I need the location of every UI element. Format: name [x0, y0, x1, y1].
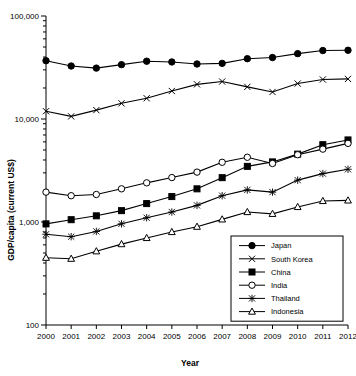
- y-tick-label: 10,000: [15, 115, 40, 124]
- series-china: [43, 137, 351, 227]
- x-tick-label: 2006: [188, 332, 206, 341]
- x-tick-label: 2010: [289, 332, 307, 341]
- y-tick-label: 1,000: [19, 218, 40, 227]
- x-tick-label: 2009: [264, 332, 282, 341]
- legend-label: South Korea: [271, 255, 314, 264]
- x-tick-label: 2005: [163, 332, 181, 341]
- x-tick-label: 2003: [113, 332, 131, 341]
- gdp-per-capita-line-chart: 1001,00010,000100,000 200020012002200320…: [0, 0, 356, 376]
- legend-label: Indonesia: [271, 307, 304, 316]
- x-tick-label: 2002: [87, 332, 105, 341]
- legend-label: China: [271, 268, 291, 277]
- series-layer: [42, 47, 351, 261]
- x-tick-label: 2011: [314, 332, 332, 341]
- y-tick-label: 100,000: [10, 12, 39, 21]
- x-tick-label: 2012: [339, 332, 356, 341]
- legend-label: India: [271, 281, 288, 290]
- chart-container: 1001,00010,000100,000 200020012002200320…: [0, 0, 356, 376]
- legend-label: Thailand: [271, 294, 300, 303]
- x-tick-label: 2000: [37, 332, 55, 341]
- legend-label: Japan: [271, 241, 291, 250]
- x-tick-label: 2004: [138, 332, 156, 341]
- series-south-korea: [43, 76, 351, 120]
- y-axis-title: GDP/capita (current US$): [6, 159, 16, 261]
- y-tick-label: 100: [26, 321, 40, 330]
- x-axis-ticks: 2000200120022003200420052006200720082009…: [37, 325, 356, 341]
- x-axis-title: Year: [181, 358, 200, 368]
- x-tick-label: 2007: [213, 332, 231, 341]
- chart-legend: JapanSouth KoreaChinaIndiaThailandIndone…: [231, 236, 343, 321]
- series-japan: [43, 47, 351, 71]
- x-tick-label: 2001: [62, 332, 80, 341]
- x-tick-label: 2008: [238, 332, 256, 341]
